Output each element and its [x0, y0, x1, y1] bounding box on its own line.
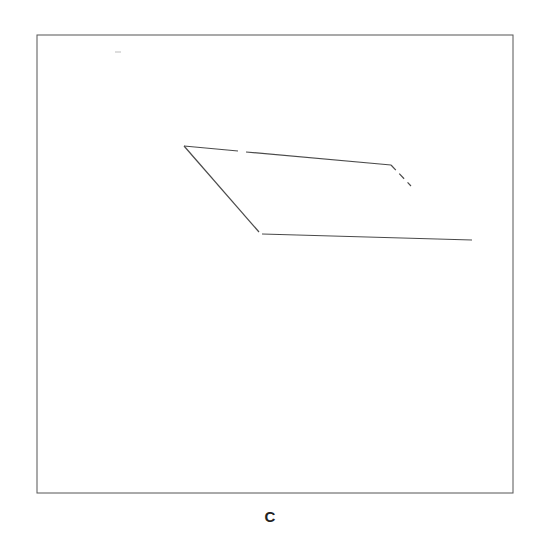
- segment-right-tail: [391, 165, 411, 186]
- diagram-frame: [37, 35, 513, 493]
- segment-left-diagonal: [184, 146, 259, 232]
- figure-caption: C: [0, 508, 540, 525]
- parallelogram-outline: [184, 146, 472, 240]
- segment-top-edge-left: [184, 146, 238, 151]
- segment-top-edge-right: [246, 152, 391, 165]
- segment-bottom-edge: [262, 234, 472, 240]
- diagram-canvas: [0, 0, 540, 559]
